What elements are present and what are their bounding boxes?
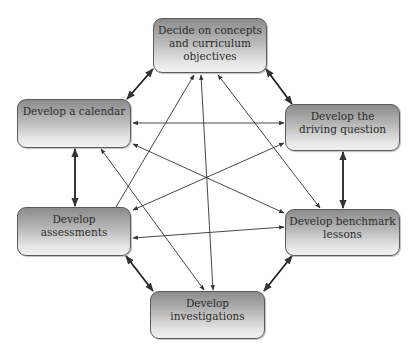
node-benchmark-label: Develop benchmark lessons [289, 215, 395, 241]
node-assessments-label: Develop assessments [41, 213, 108, 239]
node-assessments: Develop assessments [17, 207, 131, 256]
node-driving-question: Develop the driving question [285, 104, 400, 151]
node-driving-question-label: Develop the driving question [299, 110, 386, 136]
edge-assessments-benchmark [133, 227, 284, 238]
node-investigations-label: Develop investigations [170, 297, 244, 323]
edge-objectives-calendar [127, 69, 153, 99]
edge-investigations-objectives [201, 75, 213, 290]
edge-benchmark-investigations [264, 256, 292, 291]
node-objectives: Decide on concepts and curriculum object… [153, 18, 267, 73]
node-objectives-label: Decide on concepts and curriculum object… [158, 24, 262, 63]
diagram-canvas: Decide on concepts and curriculum object… [0, 0, 414, 353]
node-benchmark: Develop benchmark lessons [285, 209, 400, 256]
edge-objectives-driving [266, 69, 292, 104]
node-calendar: Develop a calendar [17, 99, 131, 148]
edge-driving-assessments [133, 143, 284, 210]
edge-assessments-investigations [126, 256, 153, 291]
node-calendar-label: Develop a calendar [23, 105, 126, 118]
node-investigations: Develop investigations [150, 291, 265, 339]
